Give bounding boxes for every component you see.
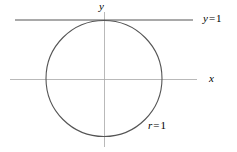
tangent-label-value: 1	[216, 12, 222, 24]
tangent-label-operator: =	[208, 12, 216, 24]
circle-radius-label: r=1	[148, 120, 166, 131]
radius-label-value: 1	[161, 119, 167, 131]
y-axis-label: y	[99, 1, 104, 12]
tangent-line-label: y=1	[203, 13, 222, 24]
figure-canvas	[0, 0, 237, 152]
x-axis-label: x	[209, 73, 214, 84]
radius-label-operator: =	[152, 119, 160, 131]
math-figure: y x y=1 r=1	[0, 0, 237, 152]
